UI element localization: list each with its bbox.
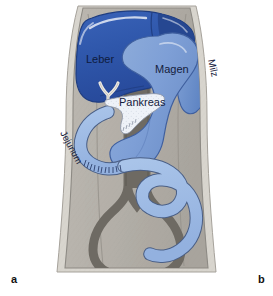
panel-letter-b: b	[258, 273, 265, 285]
anatomy-illustration: Leber Magen Milz Pankreas Jejunum a b	[0, 0, 273, 296]
label-liver: Leber	[86, 53, 114, 65]
label-pancreas: Pankreas	[119, 96, 166, 108]
panel-letter-a: a	[11, 273, 18, 285]
label-stomach: Magen	[155, 63, 189, 75]
anatomical-figure: Leber Magen Milz Pankreas Jejunum a b	[0, 0, 273, 296]
